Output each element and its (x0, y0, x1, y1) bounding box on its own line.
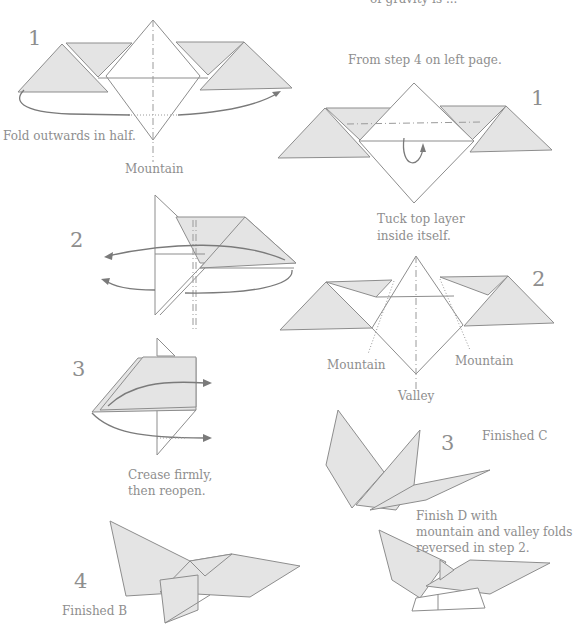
right-step1-number: 1 (531, 86, 544, 110)
right-step2-mountain-right: Mountain (455, 354, 514, 368)
right-step3-finished-c: Finished C (482, 429, 547, 443)
right-finish-d-line2: mountain and valley folds (416, 525, 572, 539)
right-finish-d-line1: Finish D with (416, 509, 498, 523)
left-step3-caption-line1: Crease firmly, (128, 468, 212, 482)
left-step4-bird (110, 521, 300, 623)
right-step1-caption-line1: Tuck top layer (377, 212, 465, 226)
left-step1-number: 1 (28, 26, 41, 50)
left-step1-caption: Fold outwards in half. (3, 129, 136, 143)
left-step4-caption: Finished B (62, 604, 127, 618)
right-step1-diagram (278, 83, 552, 203)
right-step2-mountain-left: Mountain (327, 358, 386, 372)
right-step3-number: 3 (441, 431, 454, 455)
right-intro-text: From step 4 on left page. (348, 53, 502, 67)
right-step2-diagram (280, 256, 554, 390)
right-finish-d-line3: reversed in step 2. (416, 541, 530, 555)
left-step3-number: 3 (72, 357, 85, 381)
left-step2-diagram (101, 195, 296, 330)
left-step3-caption-line2: then reopen. (128, 484, 206, 498)
left-step4-number: 4 (74, 569, 87, 593)
top-text-fragment: of gravity is ... (370, 0, 457, 6)
left-step2-number: 2 (70, 228, 83, 252)
right-step2-number: 2 (532, 267, 545, 291)
right-step2-valley-label: Valley (398, 389, 434, 403)
left-step1-mountain-label: Mountain (125, 162, 184, 176)
right-step3-bird-c (326, 410, 490, 510)
left-step3-diagram (92, 338, 212, 455)
right-step1-caption-line2: inside itself. (377, 229, 451, 243)
